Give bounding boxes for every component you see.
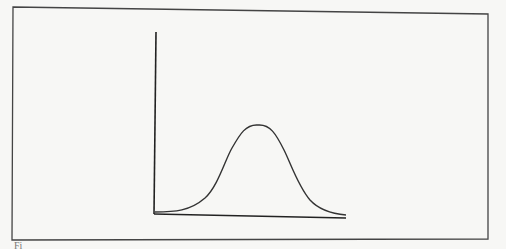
y-axis xyxy=(154,32,156,214)
diagram-canvas xyxy=(0,0,506,249)
diagram-frame xyxy=(12,7,488,240)
x-axis xyxy=(154,214,346,218)
caption-fragment: Fi xyxy=(14,240,22,249)
bell-curve xyxy=(155,125,346,215)
